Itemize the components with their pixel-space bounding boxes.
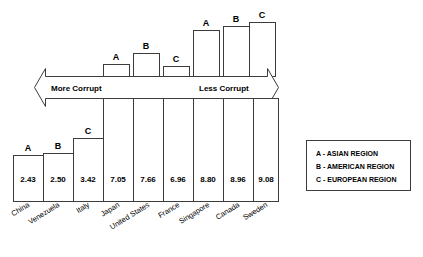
upper-bar-japan	[104, 65, 130, 77]
chart-svg: A B C A B C More Corrupt Less Corrupt	[0, 0, 423, 257]
bar-italy	[74, 139, 104, 202]
bar-value-united-states: 7.66	[140, 175, 156, 184]
upper-bar-letter-united-states: B	[143, 41, 150, 51]
bar-value-china: 2.43	[20, 175, 36, 184]
bar-letter-china: A	[25, 143, 32, 153]
upper-bar-singapore	[194, 31, 220, 77]
country-label-japan: Japan	[99, 200, 121, 218]
less-corrupt-label: Less Corrupt	[199, 84, 249, 93]
country-label-canada: Canada	[214, 200, 242, 222]
bar-value-japan: 7.05	[110, 175, 126, 184]
upper-bar-letter-france: C	[173, 54, 180, 64]
upper-bar-letter-sweden: C	[259, 10, 266, 20]
legend-entry-american: B - AMERICAN REGION	[316, 163, 394, 170]
bar-value-italy: 3.42	[80, 175, 96, 184]
legend-entry-european: C - EUROPEAN REGION	[316, 176, 397, 183]
legend: A - ASIAN REGION B - AMERICAN REGION C -…	[307, 141, 411, 191]
upper-bar-sweden	[250, 23, 276, 77]
country-label-italy: Italy	[75, 200, 92, 215]
bar-france	[164, 99, 194, 202]
bar-value-canada: 8.96	[230, 175, 246, 184]
legend-entry-asian: A - ASIAN REGION	[316, 150, 378, 157]
bar-singapore	[194, 99, 224, 202]
upper-bar-letter-singapore: A	[203, 18, 210, 28]
upper-bar-canada	[224, 27, 250, 77]
more-corrupt-label: More Corrupt	[51, 84, 102, 93]
country-labels-group: China Venezuela Italy Japan United State…	[10, 200, 269, 232]
upper-bar-letter-japan: A	[113, 52, 120, 62]
country-label-venezuela: Venezuela	[27, 200, 62, 227]
upper-bar-france	[164, 67, 190, 77]
bar-value-sweden: 9.08	[258, 175, 274, 184]
bar-canada	[224, 99, 254, 202]
bar-united-states	[134, 99, 164, 202]
bar-letter-italy: C	[85, 126, 92, 136]
upper-bar-united-states	[134, 54, 160, 77]
lower-bars-group: A 2.43 B 2.50 C 3.42 7.05 7.66 6.96 8.80	[14, 99, 279, 202]
bar-value-venezuela: 2.50	[50, 175, 66, 184]
country-label-china: China	[10, 200, 32, 218]
country-label-sweden: Sweden	[241, 200, 269, 222]
bar-japan	[104, 99, 134, 202]
bar-letter-venezuela: B	[55, 141, 62, 151]
upper-bars-group: A B C A B C	[104, 10, 276, 77]
country-label-singapore: Singapore	[177, 200, 211, 226]
bar-value-france: 6.96	[170, 175, 186, 184]
bar-value-singapore: 8.80	[200, 175, 216, 184]
bar-sweden	[254, 99, 279, 202]
chart-figure: A B C A B C More Corrupt Less Corrupt	[0, 0, 423, 257]
upper-bar-letter-canada: B	[233, 14, 240, 24]
